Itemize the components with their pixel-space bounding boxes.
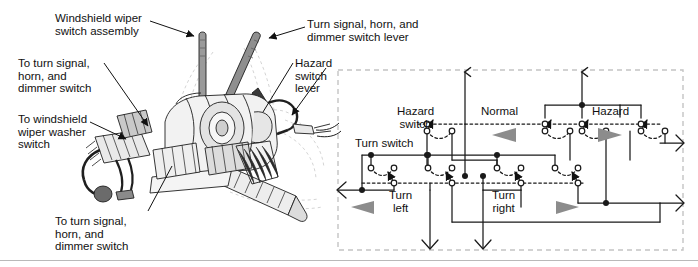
schematic-boundary	[338, 70, 683, 250]
callout-windshield-wiper-switch-assembly: Windshield wiper switch assembly	[55, 12, 142, 37]
turn-contact-arcs	[371, 168, 578, 176]
callout-turn-signal-horn-dimmer-switch-lever: Turn signal, horn, and dimmer switch lev…	[307, 18, 418, 43]
callout-to-turn-signal-horn-dimmer-upper: To turn signal, horn, and dimmer switch	[18, 57, 91, 95]
contact-terminals	[368, 121, 668, 186]
callout-to-turn-signal-horn-dimmer-lower: To turn signal, horn, and dimmer switch	[55, 215, 128, 253]
stray-leads	[316, 123, 341, 137]
schematic-label-hazard: Hazard	[592, 105, 629, 118]
schematic-label-turn-left: Turn left	[389, 189, 412, 214]
hazard-gray-arrow-right	[598, 128, 622, 142]
hazard-switch-blades	[427, 120, 647, 131]
normal-gray-arrow-left	[492, 128, 516, 142]
schematic-label-hazard-switch: Hazard switch	[397, 105, 434, 130]
figure-baseline-rule	[0, 260, 698, 261]
technical-figure: Windshield wiper switch assembly To turn…	[0, 0, 698, 267]
leader-hazard-lever-a	[263, 63, 293, 112]
schematic-label-turn-switch: Turn switch	[355, 137, 413, 150]
leader-wiper-assembly	[150, 21, 194, 36]
turn-left-gray-arrow	[351, 201, 374, 214]
callout-to-windshield-wiper-washer-switch: To windshield wiper washer switch	[18, 113, 87, 151]
turn-right-gray-arrow	[556, 201, 579, 214]
callout-hazard-switch-lever: Hazard switch lever	[295, 57, 332, 95]
leader-turn-lever	[269, 27, 305, 38]
schematic-label-normal: Normal	[481, 105, 518, 118]
schematic-label-turn-right: Turn right	[492, 189, 515, 214]
schematic-diagram	[337, 70, 684, 250]
